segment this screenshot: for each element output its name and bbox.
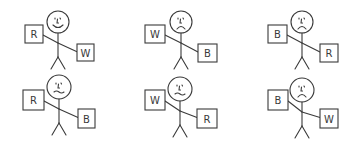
mouth: [298, 27, 306, 30]
right-arm: [180, 111, 197, 118]
mouth: [177, 27, 185, 30]
face-sad-icon: [298, 86, 306, 97]
right-leg: [59, 123, 66, 135]
right-card: W: [320, 109, 338, 128]
left-arm: [44, 101, 59, 109]
right-arm: [181, 43, 198, 52]
card-letter: R: [204, 114, 211, 125]
right-arm: [58, 43, 77, 52]
right-card: R: [197, 109, 217, 128]
right-card: B: [198, 44, 217, 62]
head-circle: [290, 78, 314, 102]
left-card: R: [23, 90, 44, 110]
mouth: [298, 95, 306, 98]
right-leg: [180, 125, 187, 137]
left-leg: [52, 123, 59, 135]
stick-figure: BW: [268, 78, 338, 138]
card-letter: W: [150, 29, 160, 40]
right-card: W: [77, 44, 94, 61]
mouth: [53, 25, 63, 28]
mouth: [54, 91, 64, 93]
face-happy-icon: [53, 18, 63, 28]
right-leg: [302, 57, 309, 69]
card-letter: B: [275, 95, 282, 106]
left-card: W: [145, 90, 165, 110]
right-arm: [302, 43, 320, 52]
left-leg: [173, 125, 180, 137]
card-letter: B: [274, 29, 281, 40]
left-arm: [165, 35, 181, 43]
left-leg: [51, 57, 58, 69]
mouth: [175, 93, 185, 95]
left-arm: [43, 35, 58, 43]
left-card: B: [268, 90, 288, 110]
left-card: B: [268, 25, 287, 43]
right-leg: [302, 126, 309, 138]
card-letter: W: [324, 114, 334, 125]
stick-figure: RW: [25, 11, 94, 69]
left-leg: [295, 57, 302, 69]
card-letter: R: [30, 95, 37, 106]
card-letter: W: [150, 95, 160, 106]
left-card: W: [145, 25, 165, 43]
head-circle: [168, 77, 192, 101]
left-arm: [165, 101, 180, 111]
card-letter: R: [326, 48, 333, 59]
left-arm: [288, 101, 302, 112]
face-sad-icon: [177, 18, 185, 29]
left-leg: [174, 57, 181, 69]
stick-figure: RB: [23, 75, 95, 135]
head-circle: [291, 11, 313, 33]
right-arm: [59, 109, 78, 118]
head-circle: [47, 11, 69, 33]
card-letter: B: [83, 114, 90, 125]
head-circle: [47, 75, 71, 99]
stick-figure: WB: [145, 11, 217, 69]
right-leg: [58, 57, 65, 69]
left-card: R: [25, 25, 43, 43]
stick-figure-diagram: RWWBBRRBWRBW: [0, 0, 358, 144]
left-arm: [287, 35, 302, 43]
left-leg: [295, 126, 302, 138]
face-neutral-icon: [54, 83, 64, 93]
face-sad-icon: [298, 18, 306, 29]
card-letter: W: [81, 48, 91, 59]
right-card: R: [320, 44, 338, 62]
card-letter: B: [204, 48, 211, 59]
right-arm: [302, 112, 320, 118]
card-letter: R: [31, 29, 38, 40]
right-card: B: [78, 109, 95, 128]
face-neutral-icon: [175, 85, 185, 95]
stick-figure: WR: [145, 77, 217, 137]
stick-figure: BR: [268, 11, 338, 69]
right-leg: [181, 57, 188, 69]
head-circle: [170, 11, 192, 33]
